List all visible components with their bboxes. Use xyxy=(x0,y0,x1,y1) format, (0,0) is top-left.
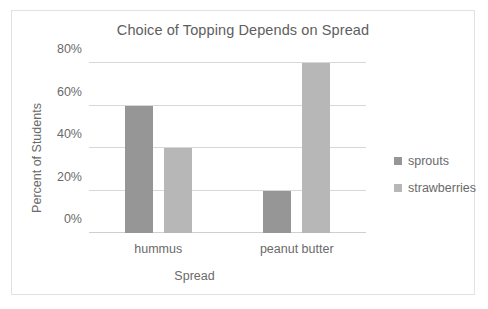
y-tick-label-60: 60% xyxy=(57,85,82,99)
x-tick-label-peanut-butter: peanut butter xyxy=(260,242,334,256)
x-axis-title: Spread xyxy=(12,269,377,283)
legend-item-strawberries: strawberries xyxy=(394,181,476,195)
x-tick-label-hummus: hummus xyxy=(134,242,182,256)
legend-label-sprouts: sprouts xyxy=(408,154,449,168)
y-tick-label-80: 80% xyxy=(57,42,82,56)
y-tick-label-40: 40% xyxy=(57,127,82,141)
bar-sprouts-hummus xyxy=(125,106,153,234)
y-tick-label-20: 20% xyxy=(57,170,82,184)
chart-frame: Choice of Topping Depends on Spread Perc… xyxy=(11,10,475,295)
legend-swatch-sprouts xyxy=(394,157,402,165)
y-tick-label-0: 0% xyxy=(64,212,82,226)
bars-layer xyxy=(89,63,366,233)
legend-swatch-strawberries xyxy=(394,184,402,192)
bar-strawberries-peanut-butter xyxy=(302,63,330,233)
bar-strawberries-hummus xyxy=(164,148,192,233)
bar-sprouts-peanut-butter xyxy=(263,191,291,234)
y-axis-title: Percent of Students xyxy=(30,103,44,213)
chart-legend: sproutsstrawberries xyxy=(394,154,476,208)
chart-title: Choice of Topping Depends on Spread xyxy=(12,22,474,38)
plot-area: 0%20%40%60%80% hummuspeanut butter xyxy=(89,63,366,233)
legend-label-strawberries: strawberries xyxy=(408,181,476,195)
legend-item-sprouts: sprouts xyxy=(394,154,476,168)
